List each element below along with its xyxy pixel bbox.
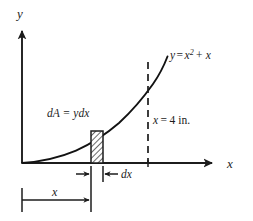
y-axis-label: y — [15, 6, 23, 21]
limit-value: 4 — [170, 114, 176, 126]
limit-equals: = — [161, 114, 168, 126]
strip-hatched-rect — [91, 131, 103, 163]
x-axis-label: x — [226, 156, 233, 171]
dx-label: dx — [121, 168, 133, 180]
curve-eq-equals: = — [177, 49, 184, 61]
area-element-label: dA=ydx — [47, 107, 90, 120]
limit-unit: in. — [178, 114, 190, 126]
area-element-expression: ydx — [72, 107, 90, 120]
curve-eq-tail: + x — [195, 49, 212, 61]
area-element-equals: = — [63, 107, 70, 119]
figure-container: y x y=x2+ x dA=ydx x=4in. — [0, 0, 253, 221]
area-element-strip — [91, 131, 103, 163]
limit-var: x — [152, 114, 159, 126]
upper-limit-label: x=4in. — [152, 114, 190, 126]
figure-background — [0, 0, 253, 221]
curve-eq-exponent: 2 — [190, 48, 194, 57]
curve-eq-y: y — [169, 49, 176, 62]
x-dimension-label: x — [51, 185, 58, 199]
area-element-dA: dA — [47, 107, 61, 119]
area-integration-diagram: y x y=x2+ x dA=ydx x=4in. — [0, 0, 253, 221]
